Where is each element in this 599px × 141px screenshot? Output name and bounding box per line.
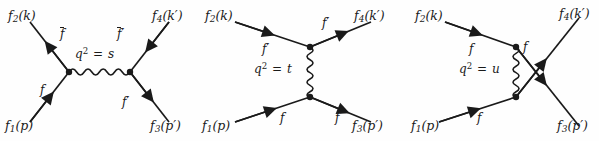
label-f3-pprime-u: f3(p′) [557,120,588,134]
vertex-top-u [513,44,519,50]
label-f-prime-upper-left-t: f′ [262,43,269,55]
label-f-lower-left-u: f [477,112,481,124]
label-f-upper-left-u: f [469,43,473,55]
arrow-f3-out-u [516,47,543,81]
label-f-prime-upper-right-t: f′ [322,17,329,29]
label-propagator-q2-t: q2 = t [254,62,292,75]
vertex-bottom-u [513,94,519,100]
label-f-lower-left-s: f [40,84,44,96]
diagram-u-channel: f2(k) f1(p) f4(k′) f3(p′) f f f q2 = u [399,0,599,141]
label-f4-kprime-u: f4(k′) [559,8,590,22]
label-f2-k-t: f2(k) [205,10,233,24]
label-f2-k-u: f2(k) [415,10,443,24]
vertex-top-t [307,44,313,50]
vertex-bottom-t [307,94,313,100]
arrow-f4-out-t [310,34,343,48]
label-f-prime-lower-right-s: f′ [122,96,129,108]
feynman-diagram-figure: f2(k) f1(p) f4(k′) f3(p′) f f f′ f′ q2 =… [0,0,599,141]
label-f2-k: f2(k) [8,10,36,24]
label-f1-p-u: f1(p) [411,120,439,134]
propagator-wavy-s [69,69,130,75]
label-fbar-upper-left-s: f [60,28,64,40]
arrow-f2-in-t [235,22,269,33]
arrow-f2-in-u [445,22,477,33]
vertex-right-s [127,69,133,75]
diagram-s-channel: f2(k) f1(p) f4(k′) f3(p′) f f f′ f′ q2 =… [0,0,199,141]
arrow-f2-out [49,46,70,72]
arrow-f1-in-t [235,110,271,122]
vertex-left-s [66,69,72,75]
diagram-t-channel: f2(k) f1(p) f4(k′) f3(p′) f′ f′ f f q2 =… [199,0,399,141]
arrow-f4-out-u [516,63,543,97]
label-f-lower-right-t: f [335,112,339,124]
label-f-lower-left-t: f [280,112,284,124]
label-f1-p-t: f1(p) [202,120,230,134]
label-propagator-q2-u: q2 = u [459,62,500,75]
label-f3-pprime: f3(p′) [150,120,181,134]
arrow-f3-out-t [310,97,344,111]
label-f-upper-right-u: f [523,41,527,53]
label-fbar-prime-upper-right-s: f′ [117,28,124,40]
arrow-f1-in-u [439,110,475,122]
propagator-wavy-t [307,47,313,98]
label-f1-p: f1(p) [5,120,33,134]
arrow-f3-out [130,72,150,98]
arrow-f4-in [149,22,169,48]
label-f4-kprime-t: f4(k′) [354,10,385,24]
label-propagator-q2-s: q2 = s [75,47,114,60]
propagator-wavy-u [513,47,519,98]
label-f4-kprime: f4(k′) [152,10,183,24]
label-f3-pprime-t: f3(p′) [352,120,383,134]
